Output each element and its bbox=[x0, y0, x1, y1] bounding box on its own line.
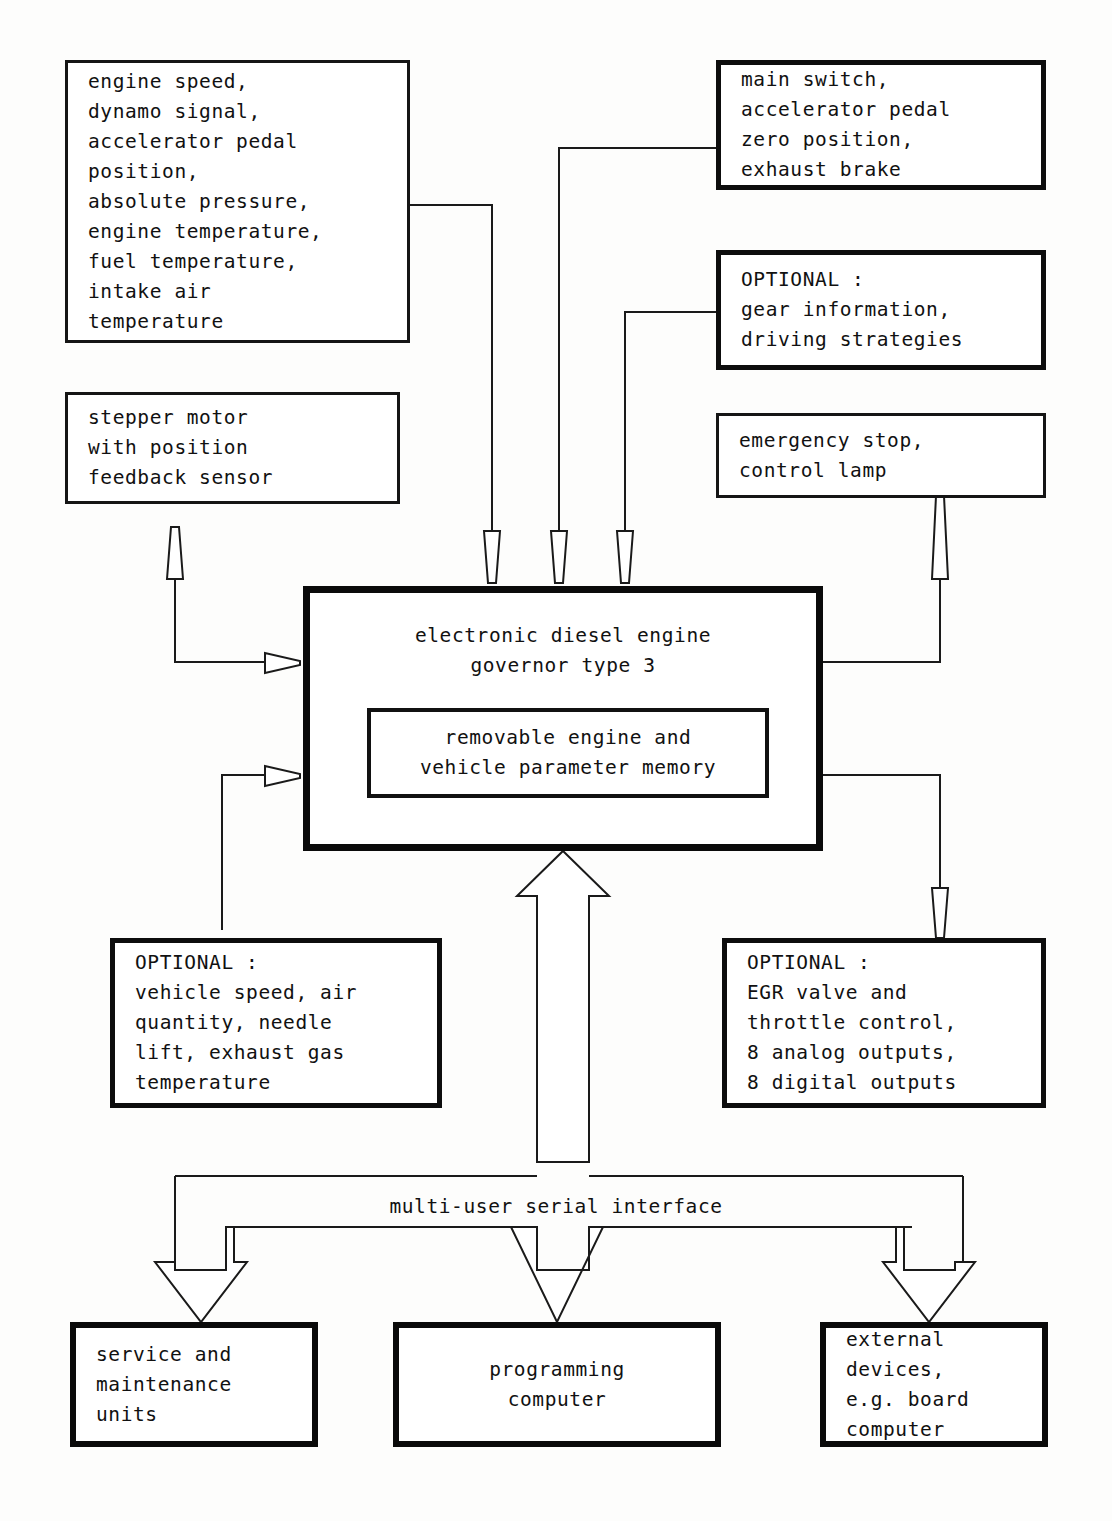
box-engine-sensors: engine speed, dynamo signal, accelerator… bbox=[65, 60, 410, 343]
box-stepper-motor: stepper motor with position feedback sen… bbox=[65, 392, 400, 504]
memory-box: removable engine and vehicle parameter m… bbox=[367, 708, 769, 798]
box-emergency-stop-label: emergency stop, control lamp bbox=[739, 426, 924, 486]
connector-emergency-stop bbox=[823, 579, 940, 662]
arrowhead-optional-egr bbox=[932, 888, 948, 938]
box-optional-vehicle-label: OPTIONAL : vehicle speed, air quantity, … bbox=[135, 948, 357, 1098]
arrowhead-central-left-upper bbox=[265, 653, 300, 673]
connector-optional-gear bbox=[625, 312, 716, 531]
box-main-switch-label: main switch, accelerator pedal zero posi… bbox=[741, 65, 951, 185]
memory-box-label: removable engine and vehicle parameter m… bbox=[420, 723, 716, 783]
connector-stepper-motor bbox=[175, 579, 265, 662]
arrowhead-external-devices bbox=[883, 1227, 975, 1322]
arrowhead-central-left-lower bbox=[265, 766, 300, 786]
box-service-units-label: service and maintenance units bbox=[96, 1340, 232, 1430]
box-emergency-stop: emergency stop, control lamp bbox=[716, 413, 1046, 498]
central-unit-title: electronic diesel engine governor type 3 bbox=[310, 621, 816, 681]
arrowhead-emergency-stop bbox=[932, 496, 948, 579]
box-optional-vehicle: OPTIONAL : vehicle speed, air quantity, … bbox=[110, 938, 442, 1108]
box-optional-gear: OPTIONAL : gear information, driving str… bbox=[716, 250, 1046, 370]
arrowhead-main-switch bbox=[551, 531, 567, 583]
box-optional-egr: OPTIONAL : EGR valve and throttle contro… bbox=[722, 938, 1046, 1108]
box-engine-sensors-label: engine speed, dynamo signal, accelerator… bbox=[88, 67, 322, 337]
box-optional-egr-label: OPTIONAL : EGR valve and throttle contro… bbox=[747, 948, 957, 1098]
box-stepper-motor-label: stepper motor with position feedback sen… bbox=[88, 403, 273, 493]
arrowhead-optional-gear bbox=[617, 531, 633, 583]
box-programming-computer: programming computer bbox=[393, 1322, 721, 1447]
arrowhead-stepper-motor bbox=[167, 527, 183, 579]
connector-engine-sensors bbox=[410, 205, 492, 531]
connector-optional-vehicle bbox=[222, 775, 265, 930]
connector-main-switch bbox=[559, 148, 716, 531]
box-optional-gear-label: OPTIONAL : gear information, driving str… bbox=[741, 265, 963, 355]
arrowhead-programming-computer bbox=[511, 1227, 603, 1322]
box-external-devices-label: external devices, e.g. board computer bbox=[846, 1325, 969, 1445]
serial-bus-label: multi-user serial interface bbox=[0, 1195, 1112, 1218]
central-unit-box: electronic diesel engine governor type 3… bbox=[303, 586, 823, 851]
box-programming-computer-label: programming computer bbox=[489, 1355, 625, 1415]
arrowhead-engine-sensors bbox=[484, 531, 500, 583]
box-external-devices: external devices, e.g. board computer bbox=[820, 1322, 1048, 1447]
box-main-switch: main switch, accelerator pedal zero posi… bbox=[716, 60, 1046, 190]
box-service-units: service and maintenance units bbox=[70, 1322, 318, 1447]
arrowhead-serial-to-central bbox=[517, 851, 609, 1162]
arrowhead-service-units bbox=[155, 1227, 247, 1322]
block-diagram: engine speed, dynamo signal, accelerator… bbox=[0, 0, 1112, 1521]
connector-optional-egr bbox=[823, 775, 940, 888]
